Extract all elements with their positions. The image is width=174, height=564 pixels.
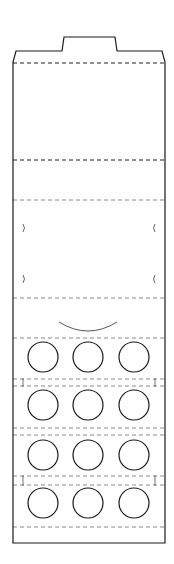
side-notches [23,224,155,283]
circle-cutout [28,390,58,420]
circle-cutout [28,488,58,518]
circle-cutout [73,390,103,420]
fold-lines [13,63,165,527]
circle-cutout [119,342,149,372]
circle-cutout [73,488,103,518]
circle-cutout [119,488,149,518]
side-notch-icon [23,275,25,283]
circle-cutout [28,440,58,470]
side-notch-icon [154,275,156,283]
side-notch-icon [154,224,156,232]
side-notch-icon [23,224,25,232]
circle-cutouts [28,342,149,518]
circle-cutout [119,390,149,420]
circle-cutout [73,440,103,470]
alignment-tick [22,476,24,485]
alignment-tick [154,379,156,386]
alignment-tick [22,379,24,386]
die-cut-template [0,0,174,564]
circle-cutout [28,342,58,372]
alignment-tick [154,476,156,485]
tick-marks [22,379,156,485]
circle-cutout [119,440,149,470]
thumb-cut-arc [59,322,117,331]
circle-cutout [73,342,103,372]
